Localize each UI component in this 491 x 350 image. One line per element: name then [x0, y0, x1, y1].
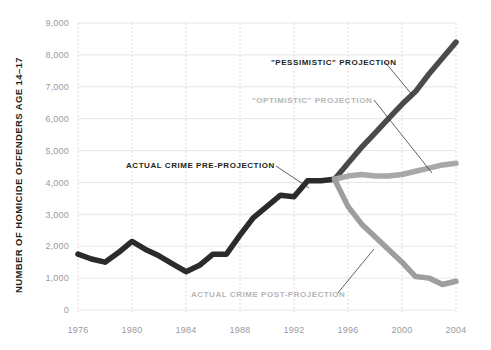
- annotation-pessimistic: "PESSIMISTIC" PROJECTION: [271, 58, 397, 67]
- y-tick-label-6000: 6,000: [45, 114, 69, 124]
- y-tick-label-8000: 8,000: [45, 50, 69, 60]
- x-tick-label-1980: 1980: [122, 325, 143, 335]
- x-tick-label-1988: 1988: [230, 325, 251, 335]
- y-tick-label-1000: 1,000: [45, 273, 69, 283]
- x-tick-label-1992: 1992: [284, 325, 305, 335]
- chart-canvas: 01,0002,0003,0004,0005,0006,0007,0008,00…: [0, 0, 491, 350]
- x-tick-label-1996: 1996: [338, 325, 359, 335]
- y-tick-label-4000: 4,000: [45, 178, 69, 188]
- y-tick-label-2000: 2,000: [45, 241, 69, 251]
- x-tick-label-2004: 2004: [446, 325, 467, 335]
- annotation-post-projection: ACTUAL CRIME POST-PROJECTION: [191, 290, 345, 299]
- y-tick-label-9000: 9,000: [45, 18, 69, 28]
- y-tick-label-0: 0: [64, 305, 69, 315]
- homicide-offenders-chart: 01,0002,0003,0004,0005,0006,0007,0008,00…: [0, 0, 491, 350]
- y-tick-label-5000: 5,000: [45, 146, 69, 156]
- x-tick-label-2000: 2000: [392, 325, 413, 335]
- annotation-pre-projection: ACTUAL CRIME PRE-PROJECTION: [126, 161, 275, 170]
- y-tick-label-7000: 7,000: [45, 82, 69, 92]
- x-tick-label-1984: 1984: [176, 325, 197, 335]
- y-axis-title: NUMBER OF HOMICIDE OFFENDERS AGE 14–17: [13, 57, 24, 293]
- x-tick-label-1976: 1976: [68, 325, 89, 335]
- annotation-optimistic: "OPTIMISTIC" PROJECTION: [252, 96, 372, 105]
- y-tick-label-3000: 3,000: [45, 210, 69, 220]
